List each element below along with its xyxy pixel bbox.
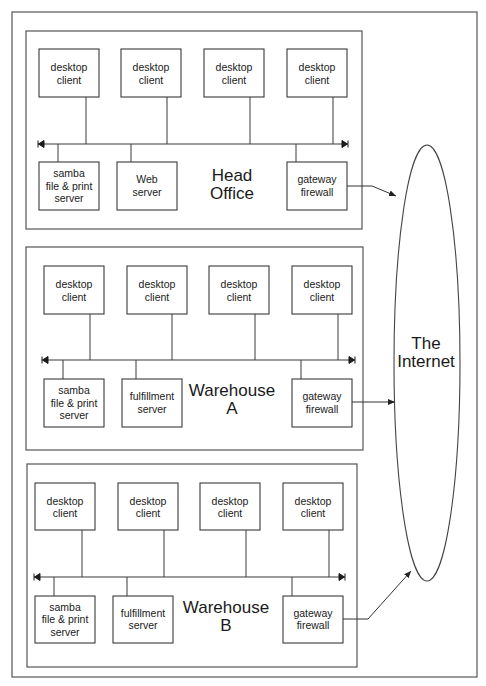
site-label-line1: Head <box>212 166 253 185</box>
node-label-line: client <box>57 74 82 86</box>
bus-terminator-right-icon <box>342 141 348 148</box>
node-label-line: samba <box>53 167 85 179</box>
internet-label-line2: Internet <box>397 352 455 371</box>
site-label-line2: A <box>226 399 238 418</box>
node-label-line: client <box>136 507 161 519</box>
desktop-client-node[interactable]: desktopclient <box>209 266 269 314</box>
node-label-line: client <box>301 507 326 519</box>
samba-server-node[interactable]: sambafile & printserver <box>35 596 95 643</box>
node-label-line: desktop <box>295 495 332 507</box>
samba-server-node[interactable]: sambafile & printserver <box>39 162 99 210</box>
site-label-line1: Warehouse <box>189 381 275 400</box>
desktop-client-node[interactable]: desktopclient <box>283 483 343 530</box>
node-label-line: desktop <box>47 495 84 507</box>
desktop-client-node[interactable]: desktopclient <box>44 266 104 314</box>
node-label-line: file & print <box>46 180 93 192</box>
node-label-line: fulfillment <box>121 607 165 619</box>
node-label-line: firewall <box>306 403 339 415</box>
node-label-line: client <box>227 291 252 303</box>
node-label-line: samba <box>58 384 90 396</box>
internet-uplink-arrow <box>347 186 396 196</box>
node-label-line: Web <box>136 173 158 185</box>
samba-server-node[interactable]: sambafile & printserver <box>44 379 104 427</box>
desktop-client-node[interactable]: desktopclient <box>118 483 178 530</box>
node-label-line: client <box>53 507 78 519</box>
node-label-line: client <box>218 507 243 519</box>
site-warehouse-b: desktopclientdesktopclientdesktopclientd… <box>27 464 357 667</box>
node-label-line: fulfillment <box>130 390 174 402</box>
desktop-client-node[interactable]: desktopclient <box>204 49 264 97</box>
node-label-line: gateway <box>293 607 333 619</box>
site-warehouse-a: desktopclientdesktopclientdesktopclientd… <box>26 247 363 450</box>
gateway-firewall-node[interactable]: gatewayfirewall <box>283 596 343 643</box>
desktop-client-node[interactable]: desktopclient <box>292 266 352 314</box>
bus-terminator-left-icon <box>38 141 44 148</box>
web-server-node[interactable]: Webserver <box>117 162 177 210</box>
fulfillment-server-node[interactable]: fulfillmentserver <box>122 379 182 427</box>
node-label-line: samba <box>49 601 81 613</box>
node-label-line: desktop <box>139 278 176 290</box>
node-label-line: client <box>145 291 170 303</box>
node-label-line: desktop <box>130 495 167 507</box>
fulfillment-server-node[interactable]: fulfillmentserver <box>113 596 173 643</box>
bus-terminator-left-icon <box>34 574 40 581</box>
node-label-line: server <box>50 626 80 638</box>
node-label-line: gateway <box>302 390 342 402</box>
bus-terminator-left-icon <box>42 357 48 364</box>
bus-terminator-right-icon <box>339 574 345 581</box>
node-label-line: desktop <box>299 61 336 73</box>
node-label-line: client <box>139 74 164 86</box>
node-label-line: server <box>59 409 89 421</box>
node-label-line: firewall <box>297 619 330 631</box>
node-label-line: client <box>305 74 330 86</box>
node-label-line: server <box>54 192 84 204</box>
node-label-line: gateway <box>297 173 337 185</box>
node-label-line: server <box>128 619 158 631</box>
site-label-line2: B <box>220 616 231 635</box>
internet-cloud: The Internet <box>394 145 460 581</box>
node-label-line: file & print <box>51 397 98 409</box>
gateway-firewall-node[interactable]: gatewayfirewall <box>292 379 352 427</box>
node-label-line: firewall <box>301 186 334 198</box>
site-head-office: desktopclientdesktopclientdesktopclientd… <box>26 31 362 229</box>
node-label-line: desktop <box>56 278 93 290</box>
internet-uplink-arrow <box>343 571 411 619</box>
desktop-client-node[interactable]: desktopclient <box>35 483 95 530</box>
node-label-line: client <box>62 291 87 303</box>
node-label-line: desktop <box>304 278 341 290</box>
node-label-line: server <box>132 186 162 198</box>
node-label-line: desktop <box>133 61 170 73</box>
desktop-client-node[interactable]: desktopclient <box>127 266 187 314</box>
gateway-firewall-node[interactable]: gatewayfirewall <box>287 162 347 210</box>
node-label-line: file & print <box>42 613 89 625</box>
node-label-line: desktop <box>51 61 88 73</box>
network-diagram: desktopclientdesktopclientdesktopclientd… <box>0 0 486 686</box>
node-label-line: desktop <box>221 278 258 290</box>
node-label-line: client <box>310 291 335 303</box>
desktop-client-node[interactable]: desktopclient <box>287 49 347 97</box>
node-label-line: client <box>222 74 247 86</box>
desktop-client-node[interactable]: desktopclient <box>39 49 99 97</box>
sites-layer: desktopclientdesktopclientdesktopclientd… <box>26 31 363 667</box>
internet-label-line1: The <box>411 334 440 353</box>
uplinks-layer <box>343 186 411 619</box>
bus-terminator-right-icon <box>349 357 355 364</box>
node-label-line: desktop <box>216 61 253 73</box>
site-label-line2: Office <box>210 184 254 203</box>
node-label-line: desktop <box>212 495 249 507</box>
site-label-line1: Warehouse <box>183 598 269 617</box>
desktop-client-node[interactable]: desktopclient <box>121 49 181 97</box>
node-label-line: server <box>137 403 167 415</box>
desktop-client-node[interactable]: desktopclient <box>200 483 260 530</box>
